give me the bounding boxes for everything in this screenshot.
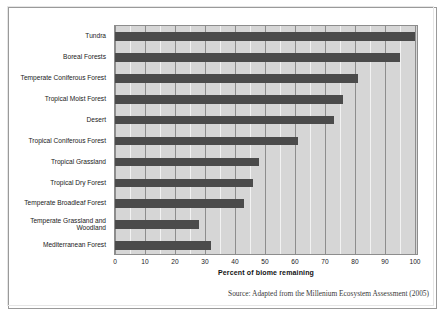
- category-label: Boreal Forests: [0, 53, 106, 61]
- category-label: Temperate Coniferous Forest: [0, 74, 106, 82]
- plot-area: [114, 25, 418, 255]
- bar: [115, 241, 211, 250]
- x-tick-label: 20: [160, 258, 190, 265]
- bar: [115, 137, 298, 146]
- category-label: Tropical Coniferous Forest: [0, 137, 106, 145]
- x-axis-tick-labels: 0102030405060708090100: [114, 256, 418, 268]
- bar-row: [115, 131, 418, 152]
- bar: [115, 158, 259, 167]
- x-tick-label: 10: [130, 258, 160, 265]
- bar-row: [115, 214, 418, 235]
- bar: [115, 220, 199, 229]
- bar: [115, 32, 415, 41]
- x-tick-label: 0: [100, 258, 130, 265]
- bar: [115, 179, 253, 188]
- bar-row: [115, 235, 418, 255]
- x-tick-label: 80: [340, 258, 370, 265]
- bar: [115, 74, 358, 83]
- bar: [115, 95, 343, 104]
- bar-row: [115, 26, 418, 47]
- x-tick-label: 70: [310, 258, 340, 265]
- bar: [115, 53, 400, 62]
- bar: [115, 199, 244, 208]
- source-note: Source: Adapted from the Millenium Ecosy…: [228, 289, 429, 298]
- bar-row: [115, 47, 418, 68]
- chart-figure: TundraBoreal ForestsTemperate Coniferous…: [8, 7, 437, 309]
- bar-series: [115, 26, 417, 254]
- x-tick-label: 40: [220, 258, 250, 265]
- category-label: Tropical Moist Forest: [0, 95, 106, 103]
- category-label: Desert: [0, 116, 106, 124]
- bar: [115, 116, 334, 125]
- x-tick-label: 90: [370, 258, 400, 265]
- y-axis-category-labels: TundraBoreal ForestsTemperate Coniferous…: [9, 25, 110, 255]
- x-tick-label: 50: [250, 258, 280, 265]
- bar-row: [115, 193, 418, 214]
- category-label: Tropical Dry Forest: [0, 179, 106, 187]
- category-label: Temperate Grassland and Woodland: [0, 217, 106, 232]
- x-tick-label: 30: [190, 258, 220, 265]
- bar-row: [115, 89, 418, 110]
- category-label: Temperate Broadleaf Forest: [0, 199, 106, 207]
- x-tick-label: 60: [280, 258, 310, 265]
- x-tick-label: 100: [400, 258, 430, 265]
- bar-row: [115, 68, 418, 89]
- bar-row: [115, 110, 418, 131]
- category-label: Tropical Grassland: [0, 158, 106, 166]
- bar-row: [115, 151, 418, 172]
- category-label: Mediterranean Forest: [0, 241, 106, 249]
- x-axis-title: Percent of biome remaining: [114, 269, 418, 276]
- category-label: Tundra: [0, 32, 106, 40]
- bar-row: [115, 172, 418, 193]
